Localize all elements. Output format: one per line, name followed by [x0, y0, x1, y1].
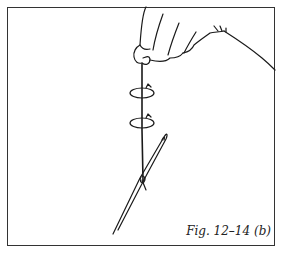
needle-illustration [113, 134, 167, 234]
thread [142, 64, 143, 180]
hand-illustration [134, 7, 275, 70]
figure-caption: Fig. 12–14 (b) [186, 224, 271, 238]
needle-threading-illustration [0, 0, 285, 255]
